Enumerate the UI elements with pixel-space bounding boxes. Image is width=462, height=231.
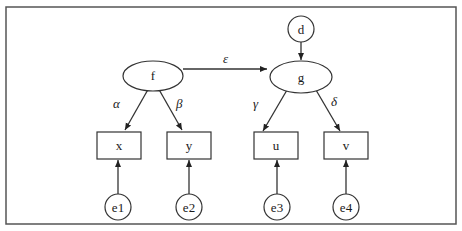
path-label-beta: β: [175, 96, 183, 111]
observed-u: u: [254, 132, 298, 159]
disturbance-d: d: [288, 16, 314, 42]
observed-x-label: x: [116, 138, 123, 153]
sem-diagram: f g d x y u v e1 e2 e3 e4 α: [0, 0, 462, 231]
latent-f: f: [123, 61, 183, 91]
error-e1-label: e1: [112, 200, 124, 215]
observed-v-label: v: [343, 138, 350, 153]
path-label-delta: δ: [331, 94, 338, 109]
observed-v: v: [324, 132, 368, 159]
error-e2-label: e2: [183, 200, 195, 215]
observed-y-label: y: [186, 138, 193, 153]
latent-g-label: g: [298, 70, 305, 85]
diagram-frame: [6, 7, 456, 224]
latent-g: g: [270, 61, 332, 93]
observed-x: x: [97, 132, 141, 159]
observed-y: y: [167, 132, 211, 159]
observed-u-label: u: [273, 138, 280, 153]
error-e2: e2: [176, 194, 202, 220]
latent-f-label: f: [151, 68, 156, 83]
error-e1: e1: [105, 194, 131, 220]
path-label-alpha: α: [113, 96, 121, 111]
path-label-epsilon: ε: [223, 51, 229, 66]
path-label-gamma: γ: [253, 96, 259, 111]
error-e4: e4: [333, 194, 359, 220]
error-e4-label: e4: [340, 200, 353, 215]
error-e3-label: e3: [271, 200, 283, 215]
disturbance-d-label: d: [298, 22, 305, 37]
error-e3: e3: [264, 194, 290, 220]
